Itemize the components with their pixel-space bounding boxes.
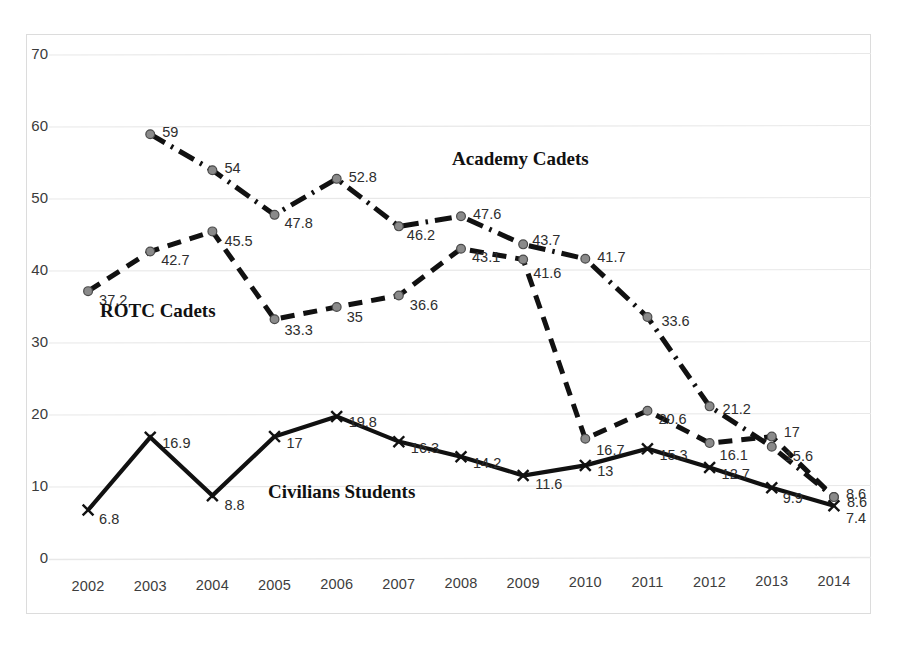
data-label: 33.6 — [661, 313, 689, 329]
data-point-marker — [519, 240, 528, 249]
data-label: 41.7 — [597, 249, 625, 265]
data-label: 16.7 — [596, 442, 624, 458]
x-tick-2012: 2012 — [680, 574, 740, 590]
data-point-marker — [145, 432, 156, 443]
y-tick-70: 70 — [10, 45, 48, 62]
data-point-marker — [643, 406, 652, 415]
data-point-marker — [208, 166, 217, 175]
data-label: 54 — [224, 160, 240, 176]
series-annotation-academy: Academy Cadets — [452, 148, 589, 170]
data-point-marker — [581, 434, 590, 443]
x-tick-2008: 2008 — [431, 575, 491, 591]
data-point-marker — [457, 244, 466, 253]
y-tick-10: 10 — [10, 477, 48, 494]
x-tick-2002: 2002 — [58, 578, 118, 594]
data-point-marker — [643, 313, 652, 322]
data-label: 16.3 — [411, 440, 439, 456]
y-tick-50: 50 — [10, 189, 48, 206]
data-label: 20.6 — [658, 411, 686, 427]
x-tick-2009: 2009 — [493, 575, 553, 591]
data-point-marker — [207, 490, 218, 501]
data-label: 9.9 — [783, 490, 803, 506]
data-label: 41.6 — [533, 265, 561, 281]
data-label: 13 — [597, 463, 613, 479]
data-label: 17 — [287, 435, 303, 451]
data-label: 33.3 — [285, 322, 313, 338]
data-label: 19.8 — [349, 414, 377, 430]
data-label: 47.6 — [473, 206, 501, 222]
data-label: 35 — [347, 309, 363, 325]
data-label: 47.8 — [285, 215, 313, 231]
data-point-marker — [705, 439, 714, 448]
data-label: 15.3 — [659, 447, 687, 463]
y-tick-20: 20 — [10, 405, 48, 422]
data-point-marker — [394, 222, 403, 231]
data-label: 16.1 — [720, 447, 748, 463]
data-label: 46.2 — [407, 227, 435, 243]
x-tick-2013: 2013 — [742, 573, 802, 589]
data-label: 6.8 — [99, 511, 119, 527]
y-tick-40: 40 — [10, 261, 48, 278]
data-point-marker — [208, 227, 217, 236]
data-point-marker — [830, 493, 839, 502]
data-point-marker — [705, 402, 714, 411]
data-point-marker — [332, 303, 341, 312]
data-label: 36.6 — [410, 297, 438, 313]
x-tick-2010: 2010 — [555, 574, 615, 590]
data-label: 43.1 — [472, 249, 500, 265]
x-tick-2003: 2003 — [120, 578, 180, 594]
y-tick-30: 30 — [10, 333, 48, 350]
data-label: 52.8 — [349, 169, 377, 185]
data-label: 8.8 — [224, 497, 244, 513]
data-label: 43.7 — [532, 232, 560, 248]
plot-area — [0, 0, 897, 646]
data-point-marker — [146, 247, 155, 256]
data-label: 8.6 — [846, 486, 866, 502]
series-line-civilians-students — [88, 416, 834, 510]
data-point-marker — [270, 210, 279, 219]
data-label: 7.4 — [846, 510, 866, 526]
y-tick-0: 0 — [10, 549, 48, 566]
y-tick-60: 60 — [10, 117, 48, 134]
x-tick-2005: 2005 — [245, 577, 305, 593]
data-point-marker — [519, 255, 528, 264]
data-label: 17 — [784, 424, 800, 440]
data-point-marker — [84, 287, 93, 296]
data-point-marker — [83, 505, 94, 516]
data-label: 21.2 — [723, 401, 751, 417]
data-point-marker — [767, 442, 776, 451]
x-tick-2007: 2007 — [369, 576, 429, 592]
data-label: 14.2 — [473, 455, 501, 471]
data-label: 42.7 — [161, 252, 189, 268]
data-point-marker — [457, 212, 466, 221]
line-chart: 706050403020100 200220032004200520062007… — [0, 0, 897, 646]
data-label: 59 — [162, 124, 178, 140]
x-tick-2006: 2006 — [307, 576, 367, 592]
data-label: 15.6 — [785, 448, 813, 464]
data-point-marker — [581, 254, 590, 263]
data-point-marker — [146, 130, 155, 139]
data-label: 11.6 — [535, 476, 562, 492]
data-point-marker — [394, 291, 403, 300]
x-tick-2004: 2004 — [182, 577, 242, 593]
data-label: 16.9 — [162, 435, 190, 451]
data-point-marker — [767, 432, 776, 441]
data-label: 45.5 — [224, 233, 252, 249]
data-point-marker — [332, 174, 341, 183]
series-annotation-civilians: Civilians Students — [268, 481, 415, 503]
data-point-marker — [270, 315, 279, 324]
x-tick-2011: 2011 — [617, 574, 677, 590]
data-label: 12.7 — [722, 466, 750, 482]
series-annotation-rotc: ROTC Cadets — [100, 300, 216, 322]
x-tick-2014: 2014 — [804, 573, 864, 589]
